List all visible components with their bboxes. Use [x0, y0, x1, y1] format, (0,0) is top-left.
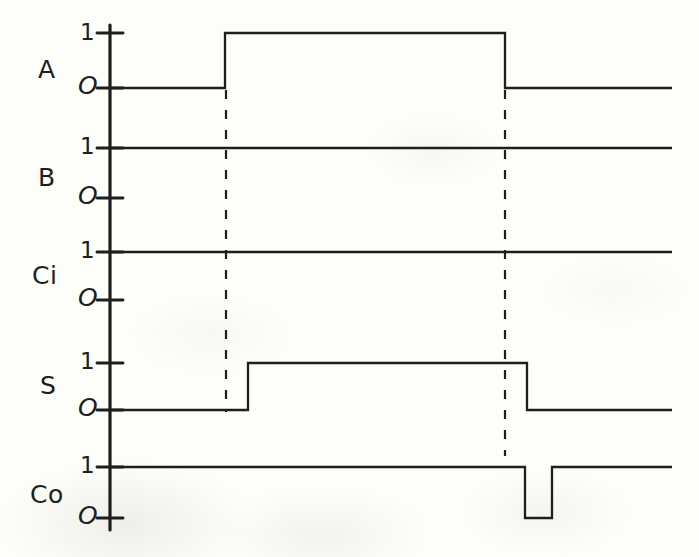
waveform-co	[110, 467, 672, 518]
waveform-plot	[0, 0, 699, 557]
signal-name-b: B	[38, 163, 56, 192]
level-label-b-high: 1	[80, 133, 95, 159]
timing-diagram-figure: A1OB1OCi1OS1OCo1O	[0, 0, 699, 557]
level-label-a-low: O	[78, 71, 98, 100]
level-label-ci-low: O	[78, 283, 98, 312]
signal-name-s: S	[40, 371, 56, 400]
level-label-co-low: O	[78, 501, 98, 530]
signal-name-ci: Ci	[32, 261, 57, 290]
waveforms-group	[110, 33, 672, 518]
signal-name-co: Co	[30, 480, 64, 509]
level-label-s-high: 1	[80, 348, 95, 374]
level-label-co-high: 1	[80, 452, 95, 478]
waveform-s	[110, 363, 672, 410]
waveform-a	[110, 33, 672, 88]
edge-markers-group	[226, 90, 505, 456]
level-label-a-high: 1	[80, 19, 95, 45]
level-label-b-low: O	[78, 181, 98, 210]
level-label-s-low: O	[78, 393, 98, 422]
signal-name-a: A	[38, 55, 56, 84]
level-label-ci-high: 1	[80, 237, 95, 263]
